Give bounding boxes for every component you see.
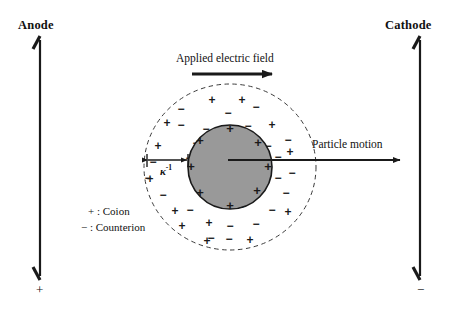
coion-glyph: +: [253, 183, 261, 198]
coion-glyph: +: [196, 185, 204, 200]
particle-motion-label: Particle motion: [312, 138, 383, 150]
cathode-label: Cathode: [385, 18, 432, 33]
counterion-glyph: −: [177, 118, 184, 132]
cathode-pole-sign: −: [417, 282, 424, 298]
counterion-glyph: −: [274, 171, 281, 185]
counterion-glyph: −: [225, 232, 232, 246]
legend-counterion: − : Counterion: [81, 221, 145, 233]
coion-glyph: +: [196, 133, 204, 148]
counterion-glyph: −: [159, 188, 166, 202]
electrophoresis-diagram: ++−−−+−−−++−−−−−−+−−+−−−−−−−+−−−+++−−−+−…: [0, 0, 458, 310]
applied-field-label: Applied electric field: [176, 52, 274, 64]
counterion-glyph: −: [274, 150, 281, 164]
coion-glyph: +: [284, 205, 291, 219]
counterion-glyph: −: [252, 100, 259, 114]
legend-coion: + : Coion: [88, 205, 130, 217]
debye-length-label: κ-1: [160, 163, 172, 177]
diagram-canvas: ++−−−+−−−++−−−−−−+−−+−−−−−−−+−−−+++−−−+−…: [0, 0, 458, 310]
counterion-glyph: −: [186, 203, 193, 217]
counterion-glyph: −: [282, 186, 289, 200]
coion-glyph: +: [203, 234, 210, 248]
coion-glyph: +: [246, 233, 253, 247]
cathode-arrow: [413, 36, 420, 280]
anode-label: Anode: [18, 18, 54, 33]
coion-glyph: +: [254, 135, 262, 150]
coion-glyph: +: [226, 198, 234, 213]
coion-glyph: +: [178, 219, 185, 233]
counterion-glyph: −: [224, 106, 231, 120]
counterion-glyph: −: [226, 219, 233, 233]
coion-glyph: +: [226, 121, 234, 136]
kappa-exponent: -1: [166, 163, 172, 172]
counterion-glyph: −: [268, 203, 275, 217]
coion-glyph: +: [171, 204, 178, 218]
anode-arrow: [33, 36, 40, 280]
coion-glyph: +: [163, 116, 170, 130]
counterion-glyph: −: [288, 166, 295, 180]
counterion-glyph: −: [149, 155, 156, 169]
coion-glyph: +: [146, 172, 153, 186]
coion-glyph: +: [238, 93, 245, 107]
coion-glyph: +: [268, 118, 275, 132]
counterion-glyph: −: [177, 102, 184, 116]
coion-glyph: +: [154, 139, 161, 153]
coion-glyph: +: [286, 145, 293, 159]
coion-glyph: +: [205, 216, 212, 230]
counterion-glyph: −: [252, 217, 259, 231]
coion-glyph: +: [208, 93, 215, 107]
anode-pole-sign: +: [36, 282, 43, 298]
